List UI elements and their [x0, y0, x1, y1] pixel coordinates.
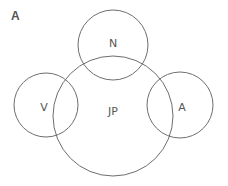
label-v: V	[40, 101, 48, 114]
label-a: A	[178, 101, 186, 114]
label-jp: JP	[107, 105, 118, 118]
venn-diagram: N V JP A	[0, 0, 228, 186]
label-n: N	[109, 37, 117, 50]
